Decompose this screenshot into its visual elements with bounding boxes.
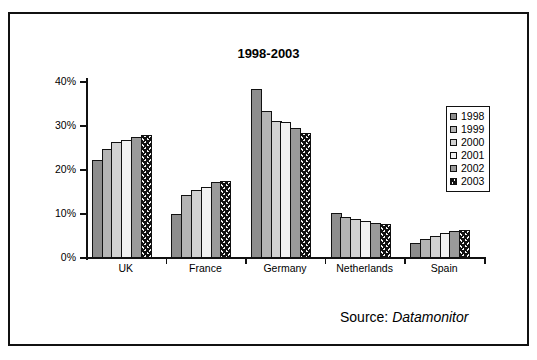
bar-spain-2003[interactable] xyxy=(459,230,470,258)
legend-label: 1999 xyxy=(461,124,484,135)
bar-group-france xyxy=(171,82,231,258)
x-label-germany: Germany xyxy=(245,262,325,274)
y-tick-label: 10% xyxy=(40,208,76,218)
legend-item-2003[interactable]: 2003 xyxy=(450,175,484,188)
legend-label: 2003 xyxy=(461,176,484,187)
legend-label: 2001 xyxy=(461,150,484,161)
legend-label: 2000 xyxy=(461,137,484,148)
y-axis-tick-labels: 0%10%20%30%40% xyxy=(36,14,76,360)
bars xyxy=(92,82,151,258)
bar-netherlands-2003[interactable] xyxy=(380,224,391,258)
x-label-spain: Spain xyxy=(404,262,484,274)
legend-swatch-icon xyxy=(450,126,457,133)
legend-label: 1998 xyxy=(461,111,484,122)
legend-item-1998[interactable]: 1998 xyxy=(450,110,484,123)
bar-group-netherlands xyxy=(331,82,391,258)
source-prefix: Source: xyxy=(340,309,388,325)
y-tick-label: 40% xyxy=(40,76,76,86)
chart-title: 1998-2003 xyxy=(10,46,527,61)
x-label-netherlands: Netherlands xyxy=(325,262,405,274)
legend-item-2000[interactable]: 2000 xyxy=(450,136,484,149)
legend-swatch-icon xyxy=(450,152,457,159)
bar-france-2003[interactable] xyxy=(220,181,231,258)
bar-group-germany xyxy=(251,82,311,258)
bar-germany-2003[interactable] xyxy=(300,133,311,258)
bar-uk-2003[interactable] xyxy=(141,135,152,258)
legend-swatch-icon xyxy=(450,178,457,185)
bars xyxy=(171,82,230,258)
plot-area xyxy=(86,82,484,258)
legend-swatch-icon xyxy=(450,165,457,172)
bars xyxy=(331,82,390,258)
legend-item-2002[interactable]: 2002 xyxy=(450,162,484,175)
chart-frame: 1998-2003 0%10%20%30%40% UKFranceGermany… xyxy=(8,12,529,346)
x-separator xyxy=(484,257,486,264)
source-name: Datamonitor xyxy=(392,309,468,325)
bar-group-uk xyxy=(92,82,152,258)
bars xyxy=(251,82,310,258)
source-note: Source: Datamonitor xyxy=(340,309,468,325)
y-tick-label: 0% xyxy=(40,252,76,262)
legend: 199819992000200120022003 xyxy=(446,106,490,192)
legend-label: 2002 xyxy=(461,163,484,174)
x-label-uk: UK xyxy=(86,262,166,274)
legend-item-2001[interactable]: 2001 xyxy=(450,149,484,162)
legend-item-1999[interactable]: 1999 xyxy=(450,123,484,136)
x-label-france: France xyxy=(166,262,246,274)
y-tick-label: 30% xyxy=(40,120,76,130)
y-tick-label: 20% xyxy=(40,164,76,174)
legend-swatch-icon xyxy=(450,113,457,120)
legend-swatch-icon xyxy=(450,139,457,146)
